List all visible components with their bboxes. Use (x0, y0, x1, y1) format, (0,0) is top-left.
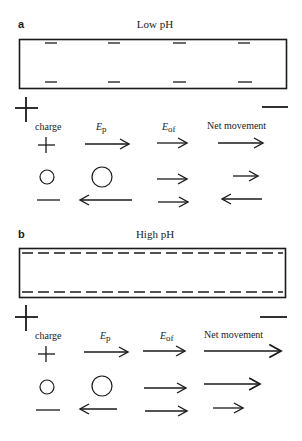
arrow-right-icon (157, 174, 187, 184)
panel-letter-a: a (18, 18, 25, 30)
neutral-charge-icon (40, 170, 54, 184)
arrow-right-icon (233, 171, 258, 181)
positive-charge-icon (38, 346, 55, 362)
header-eof: Eof (159, 330, 174, 343)
capillary-tube-b (20, 249, 286, 298)
arrow-right-icon (157, 138, 187, 148)
header-charge: charge (35, 121, 62, 132)
header-charge: charge (35, 330, 62, 341)
positive-charge-icon (38, 137, 55, 153)
arrow-left-icon (80, 404, 117, 414)
arrow-right-icon (204, 378, 260, 390)
anode-plus-icon (15, 305, 38, 331)
panel-b-title: High pH (136, 228, 174, 240)
arrow-left-icon (80, 195, 132, 205)
panel-a: a Low pH charge Ep Eof Net movement (15, 18, 288, 207)
arrow-right-icon (145, 406, 187, 416)
panel-a-title: Low pH (137, 18, 173, 30)
no-ep-circle-icon (92, 376, 112, 396)
panel-letter-b: b (18, 228, 25, 240)
arrow-right-icon (85, 139, 129, 149)
arrow-left-icon (222, 194, 262, 204)
header-ep: Ep (99, 330, 111, 343)
header-net-movement: Net movement (207, 120, 266, 131)
wall-charges-b (22, 253, 283, 292)
anode-plus-icon (15, 97, 38, 122)
panel-b: b High pH charge Ep Eof Net movement (15, 228, 287, 416)
header-net-movement: Net movement (204, 329, 263, 340)
arrow-right-icon (143, 346, 185, 356)
arrow-right-icon (144, 383, 186, 393)
header-ep: Ep (95, 121, 107, 134)
arrow-right-icon (218, 138, 263, 148)
capillary-tube-a (20, 40, 287, 89)
arrow-right-icon (84, 347, 128, 357)
neutral-charge-icon (40, 380, 54, 394)
arrow-right-icon (204, 345, 281, 358)
electroosmotic-flow-diagram: a Low pH charge Ep Eof Net movement (0, 0, 302, 441)
wall-charges-a (45, 43, 252, 82)
header-eof: Eof (161, 121, 176, 134)
arrow-right-icon (158, 197, 188, 207)
no-ep-circle-icon (92, 167, 112, 187)
arrow-right-icon (213, 403, 243, 413)
